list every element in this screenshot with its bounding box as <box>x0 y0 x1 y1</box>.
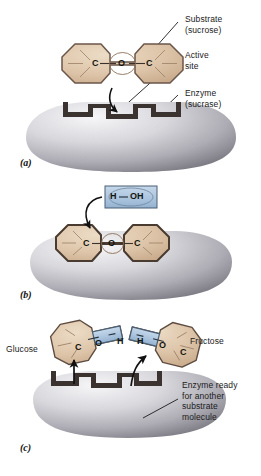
label-enzyme: Enzyme (sucrase) <box>185 88 221 109</box>
label-active-site-line2: site <box>185 61 199 71</box>
label-substrate-line2: (sucrose) <box>185 25 221 35</box>
label-enzyme-ready: Enzyme ready for another substrate molec… <box>182 380 238 422</box>
atom-c-glucose-c: C <box>75 342 82 352</box>
atom-c-left-a: C <box>92 58 99 68</box>
atom-c-right-b: C <box>134 238 141 248</box>
atom-o-fructose: O <box>159 340 166 350</box>
atom-o-mid-a: O <box>118 58 125 68</box>
enzyme-action-figure: Substrate (sucrose) Active site Enzyme (… <box>0 0 261 476</box>
atom-c-fructose-c: C <box>180 347 187 357</box>
atom-c-right-a: C <box>146 58 153 68</box>
atom-o-glucose: O <box>95 338 102 348</box>
panel-tag-c: (c) <box>20 442 31 453</box>
atom-c-left-b: C <box>83 238 90 248</box>
label-substrate: Substrate (sucrose) <box>185 14 222 35</box>
panel-a: Substrate (sucrose) Active site Enzyme (… <box>0 0 261 172</box>
label-fructose: Fructose <box>190 336 224 347</box>
label-enzyme-ready-line3: substrate <box>182 401 218 411</box>
label-substrate-line1: Substrate <box>185 14 222 24</box>
atom-oh-water-b: OH <box>130 191 144 201</box>
label-active-site-line1: Active <box>185 50 209 60</box>
atom-h-water-b: H <box>110 191 117 201</box>
atom-h-fructose: H <box>137 336 144 346</box>
label-enzyme-ready-line1: Enzyme ready <box>182 380 238 390</box>
label-glucose: Glucose <box>6 344 38 355</box>
label-enzyme-line2: (sucrase) <box>185 99 221 109</box>
atom-h-glucose: H <box>117 336 124 346</box>
label-enzyme-line1: Enzyme <box>185 88 216 98</box>
atom-o-mid-b: O <box>108 238 115 248</box>
label-enzyme-ready-line2: for another <box>182 391 224 401</box>
panel-b: H OH C O C (b) <box>0 172 261 312</box>
panel-tag-b: (b) <box>20 289 32 300</box>
panel-tag-a: (a) <box>20 157 32 168</box>
panel-c: Glucose Fructose Enzyme ready for anothe… <box>0 312 261 476</box>
label-active-site: Active site <box>185 50 209 71</box>
label-enzyme-ready-line4: molecule <box>182 412 217 422</box>
